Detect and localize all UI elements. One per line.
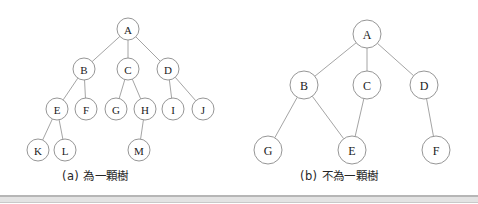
tree-node-label-a-F: F <box>83 104 89 116</box>
tree-node-label-a-I: I <box>171 104 175 116</box>
tree-edge-a-E-K <box>43 119 53 140</box>
tree-node-b-C[interactable]: C <box>353 71 381 99</box>
tree-node-a-D[interactable]: D <box>157 58 179 80</box>
tree-node-label-a-L: L <box>62 145 69 157</box>
tree-edge-b-C-E <box>355 99 364 137</box>
tree-node-a-J[interactable]: J <box>192 98 214 120</box>
page-separator-rule-thin <box>0 202 478 203</box>
tree-edge-a-B-F <box>85 80 86 98</box>
tree-node-b-D[interactable]: D <box>410 71 438 99</box>
tree-node-a-E[interactable]: E <box>46 98 68 120</box>
tree-node-label-b-G: G <box>264 144 273 158</box>
tree-node-b-E[interactable]: E <box>338 136 366 164</box>
tree-node-label-a-D: D <box>164 64 172 76</box>
caption-panel-a: (a) 為一顆樹 <box>62 167 129 183</box>
tree-edge-a-H-M <box>141 120 144 139</box>
tree-node-label-b-D: D <box>420 79 429 93</box>
tree-node-a-G[interactable]: G <box>105 98 127 120</box>
tree-node-b-G[interactable]: G <box>254 136 282 164</box>
tree-node-label-b-F: F <box>433 144 440 158</box>
tree-edge-a-D-I <box>169 80 171 98</box>
tree-node-b-A[interactable]: A <box>353 20 381 48</box>
tree-node-a-F[interactable]: F <box>75 98 97 120</box>
tree-edge-a-E-L <box>59 120 63 139</box>
tree-node-a-L[interactable]: L <box>54 139 76 161</box>
tree-edge-a-A-D <box>136 37 160 61</box>
tree-node-label-b-C: C <box>363 79 371 93</box>
tree-edge-b-B-E <box>312 96 343 138</box>
tree-node-b-B[interactable]: B <box>290 71 318 99</box>
tree-node-label-a-K: K <box>34 145 42 157</box>
tree-node-a-A[interactable]: A <box>117 18 139 40</box>
tree-node-a-K[interactable]: K <box>27 139 49 161</box>
tree-node-b-F[interactable]: F <box>422 136 450 164</box>
tree-node-label-a-H: H <box>141 104 149 116</box>
tree-node-a-M[interactable]: M <box>128 139 150 161</box>
tree-node-label-a-J: J <box>201 104 206 116</box>
tree-node-label-b-B: B <box>300 79 308 93</box>
tree-node-label-a-M: M <box>134 145 144 157</box>
tree-node-label-a-A: A <box>124 24 132 36</box>
tree-edge-b-D-F <box>427 99 434 136</box>
tree-node-label-a-C: C <box>124 64 131 76</box>
tree-node-a-I[interactable]: I <box>162 98 184 120</box>
tree-edge-a-D-J <box>175 77 196 100</box>
tree-edge-a-C-G <box>119 80 125 99</box>
tree-node-label-a-G: G <box>112 104 120 116</box>
tree-node-a-H[interactable]: H <box>134 98 156 120</box>
tree-edge-b-B-G <box>275 97 297 138</box>
tree-node-label-b-A: A <box>363 28 372 42</box>
nodes-layer: ABCDEFGHIJKLMABCDGEF <box>27 18 450 164</box>
tree-edge-b-A-B <box>315 43 356 76</box>
tree-edge-b-A-D <box>377 43 413 75</box>
caption-panel-b: (b) 不為一顆樹 <box>300 167 379 183</box>
tree-edge-a-B-E <box>63 78 78 100</box>
tree-node-a-B[interactable]: B <box>73 58 95 80</box>
figure-root: ABCDEFGHIJKLMABCDGEF (a) 為一顆樹 (b) 不為一顆樹 <box>0 0 478 204</box>
tree-edge-a-C-H <box>132 79 140 99</box>
tree-node-a-C[interactable]: C <box>117 58 139 80</box>
tree-node-label-a-B: B <box>80 64 87 76</box>
tree-node-label-b-E: E <box>348 144 355 158</box>
tree-node-label-a-E: E <box>54 104 61 116</box>
tree-edge-a-A-B <box>92 36 120 61</box>
